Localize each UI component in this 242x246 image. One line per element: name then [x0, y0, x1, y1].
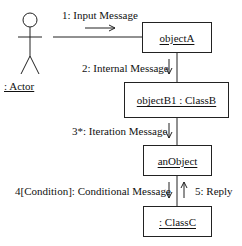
message-4-label: 4[Condition]: Conditional Message [15, 185, 171, 197]
message-5-label: 5: Reply [195, 185, 233, 197]
communication-diagram: : Actor objectA objectB1 : ClassB anObje… [0, 0, 242, 246]
object-label: : ClassC [159, 216, 196, 228]
object-label: objectB1 : ClassB [137, 94, 216, 106]
message-2-label: 2: Internal Message [82, 62, 169, 74]
actor-figure-icon [18, 13, 42, 74]
actor-label: : Actor [4, 80, 34, 92]
object-label: anObject [158, 155, 198, 167]
object-label: objectA [160, 32, 195, 44]
object-anObject[interactable]: anObject [143, 145, 212, 176]
message-3-label: 3*: Iteration Message [72, 125, 167, 137]
message-1-label: 1: Input Message [62, 9, 138, 21]
object-classC[interactable]: : ClassC [143, 206, 212, 237]
object-objectA[interactable]: objectA [142, 22, 212, 53]
message-5-arrow-icon [181, 182, 187, 198]
object-objectB1[interactable]: objectB1 : ClassB [124, 82, 229, 118]
message-1-arrow-icon [85, 25, 115, 31]
